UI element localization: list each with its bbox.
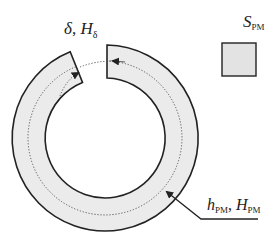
pm-field-symbol: H xyxy=(236,196,248,213)
magnet-ring xyxy=(12,45,198,231)
area-symbol: S xyxy=(243,12,252,31)
area-label: SPM xyxy=(243,13,265,32)
area-subscript: PM xyxy=(252,22,265,32)
pm-length-separator: , xyxy=(228,196,236,213)
gap-field-subscript: δ xyxy=(93,29,98,40)
pm-field-subscript: PM xyxy=(248,205,261,215)
gap-symbol: δ xyxy=(64,19,72,38)
gap-label: δ, Hδ xyxy=(64,20,97,40)
area-square xyxy=(222,43,256,76)
gap-field-symbol: H xyxy=(80,19,92,38)
pm-length-label: hPM, HPM xyxy=(207,197,261,215)
pm-length-subscript: PM xyxy=(215,205,228,215)
pm-length-symbol: h xyxy=(207,196,215,213)
